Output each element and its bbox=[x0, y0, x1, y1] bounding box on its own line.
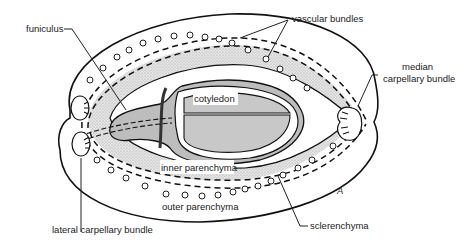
median-carpellary-bundle bbox=[338, 107, 362, 140]
label-vascular-bundles: vascular bundles bbox=[292, 13, 364, 24]
label-median-line2: carpellary bundle bbox=[383, 73, 455, 84]
label-inner-parenchyma: inner parenchyma bbox=[161, 162, 238, 173]
label-sclerenchyma: sclerenchyma bbox=[310, 220, 369, 231]
label-funiculus: funiculus bbox=[26, 23, 64, 34]
diagram-canvas: funiculus vascular bundles median carpel… bbox=[0, 0, 476, 250]
lateral-carpellary-bundles bbox=[71, 96, 90, 156]
label-median-line1: median bbox=[402, 61, 433, 72]
panel-letter: A bbox=[336, 185, 343, 196]
label-outer-parenchyma: outer parenchyma bbox=[162, 201, 239, 212]
label-cotyledon: cotyledon bbox=[194, 93, 235, 104]
label-lateral-carpellary-bundle: lateral carpellary bundle bbox=[52, 224, 153, 235]
